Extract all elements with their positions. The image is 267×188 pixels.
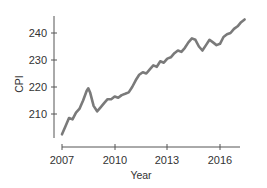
cpi-data-line — [62, 20, 245, 135]
x-tick-label: 2010 — [103, 154, 127, 166]
y-tick-label: 230 — [29, 54, 47, 66]
y-axis-label: CPI — [13, 75, 25, 93]
x-tick-label: 2016 — [208, 154, 232, 166]
y-tick-label: 220 — [29, 81, 47, 93]
x-axis-label: Year — [130, 169, 152, 181]
cpi-line-chart: 240 230 220 210 CPI 2007 2010 2013 2016 … — [0, 0, 267, 188]
y-tick-labels: 240 230 220 210 — [29, 27, 47, 120]
x-tick-label: 2013 — [155, 154, 179, 166]
y-tick-label: 240 — [29, 27, 47, 39]
y-tick-label: 210 — [29, 108, 47, 120]
x-tick-labels: 2007 2010 2013 2016 — [50, 154, 232, 166]
x-tick-label: 2007 — [50, 154, 74, 166]
